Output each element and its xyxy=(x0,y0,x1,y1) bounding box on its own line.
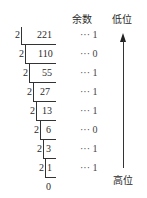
division-bracket-horizontal xyxy=(45,177,56,178)
division-bracket-vertical xyxy=(29,63,30,83)
remainder: ··· 0 xyxy=(80,49,98,59)
divisor: 2 xyxy=(37,144,42,154)
final-quotient: 0 xyxy=(46,182,51,192)
division-bracket-horizontal xyxy=(36,120,56,121)
dividend: 3 xyxy=(46,144,51,154)
dividend: 55 xyxy=(42,68,52,78)
remainder: ··· 1 xyxy=(80,144,98,154)
division-bracket-horizontal xyxy=(21,44,56,45)
divisor: 2 xyxy=(34,125,39,135)
remainder: ··· 1 xyxy=(80,87,98,97)
remainder: ··· 1 xyxy=(80,106,98,116)
divisor: 2 xyxy=(30,106,35,116)
divisor: 2 xyxy=(27,87,32,97)
remainder: ··· 1 xyxy=(80,68,98,78)
divisor: 2 xyxy=(15,30,20,40)
high-bit-label: 高位 xyxy=(113,176,133,186)
remainder: ··· 0 xyxy=(80,125,98,135)
divisor: 2 xyxy=(23,68,28,78)
dividend: 110 xyxy=(38,49,53,59)
division-bracket-vertical xyxy=(45,158,46,178)
remainder: ··· 1 xyxy=(80,163,98,173)
division-bracket-vertical xyxy=(25,44,26,64)
low-bit-label: 低位 xyxy=(112,15,132,25)
dividend: 6 xyxy=(46,125,51,135)
division-bracket-vertical xyxy=(21,27,22,45)
arrow-shaft xyxy=(123,40,124,168)
remainder-header: 余数 xyxy=(72,15,92,25)
divisor: 2 xyxy=(19,49,24,59)
divisor: 2 xyxy=(39,163,44,173)
division-bracket-vertical xyxy=(43,139,44,159)
dividend: 27 xyxy=(40,87,50,97)
dividend: 13 xyxy=(42,106,52,116)
remainder: ··· 1 xyxy=(80,30,98,40)
dividend: 1 xyxy=(47,163,52,173)
division-bracket-vertical xyxy=(40,120,41,140)
dividend: 221 xyxy=(37,30,52,40)
division-bracket-vertical xyxy=(36,101,37,121)
division-bracket-vertical xyxy=(33,82,34,102)
